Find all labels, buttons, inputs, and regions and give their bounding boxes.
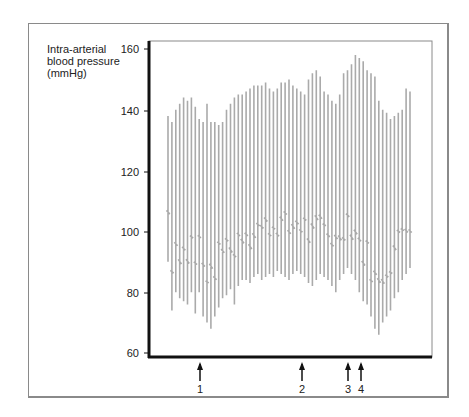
event-markers: 1 2 3 4: [197, 362, 364, 395]
waveform-trace: [167, 55, 412, 335]
event-label: 2: [299, 383, 305, 395]
y-tick-label: 140: [121, 105, 139, 117]
y-tick-label: 80: [127, 287, 139, 299]
event-arrow-2: 2: [299, 362, 305, 395]
y-tick-label: 120: [121, 166, 139, 178]
y-tick-label: 160: [121, 43, 139, 55]
event-arrow-1: 1: [197, 362, 203, 395]
event-arrow-3: 3: [345, 362, 351, 395]
y-ticks: 160 140 120 100 80 60: [121, 43, 149, 359]
event-label: 1: [197, 383, 203, 395]
event-arrow-4: 4: [358, 362, 364, 395]
event-label: 3: [345, 383, 351, 395]
event-label: 4: [358, 383, 364, 395]
blood-pressure-waveform: [167, 55, 412, 335]
y-tick-label: 60: [127, 347, 139, 359]
y-tick-label: 100: [121, 226, 139, 238]
chart-canvas: 160 140 120 100 80 60 1 2 3 4: [0, 0, 469, 417]
